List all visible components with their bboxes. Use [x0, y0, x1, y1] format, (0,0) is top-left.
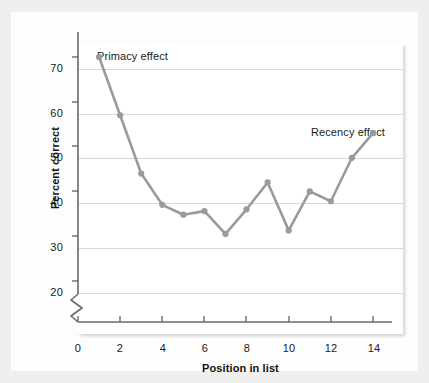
xtick-label-0: 0 [66, 342, 90, 354]
gridline-70 [78, 69, 403, 70]
ytick-label-30: 30 [37, 241, 63, 253]
gridline-50 [78, 158, 403, 159]
x-axis-label: Position in list [78, 362, 403, 374]
annotation-primacy-effect: Primacy effect [97, 50, 168, 62]
gridline-60 [78, 114, 403, 115]
annotation-recency-effect: Recency effect [311, 126, 385, 138]
xtick-label-12: 12 [319, 342, 343, 354]
gridline-20 [78, 293, 403, 294]
xtick-label-8: 8 [235, 342, 259, 354]
ytick-label-70: 70 [37, 62, 63, 74]
chart-card: 70 60 50 40 30 20 0 2 4 6 8 10 12 14 Per… [11, 12, 418, 371]
xtick-label-6: 6 [193, 342, 217, 354]
gridline-40 [78, 203, 403, 204]
xtick-label-4: 4 [151, 342, 175, 354]
xtick-label-14: 14 [362, 342, 386, 354]
y-axis-label: Percent correct [49, 108, 61, 228]
xtick-label-10: 10 [277, 342, 301, 354]
ytick-label-20: 20 [37, 286, 63, 298]
xtick-label-2: 2 [108, 342, 132, 354]
gridline-30 [78, 248, 403, 249]
plot-area [78, 44, 403, 334]
figure: 70 60 50 40 30 20 0 2 4 6 8 10 12 14 Per… [0, 0, 429, 383]
